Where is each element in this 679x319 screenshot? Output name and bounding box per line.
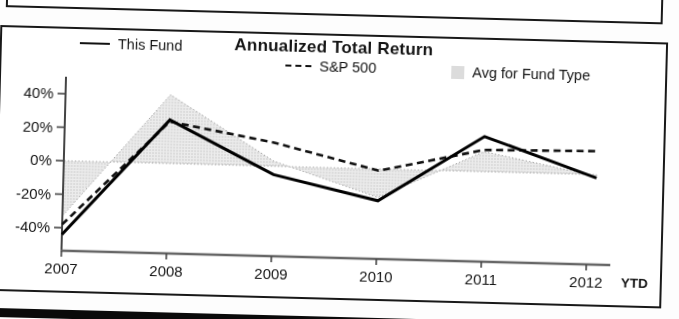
x-tick-label-2012: 2012 — [569, 273, 603, 291]
legend-item-this-fund: This Fund — [80, 35, 183, 54]
redaction-bar — [0, 308, 442, 319]
x-tick-label-2008: 2008 — [149, 262, 183, 280]
x-tick-label-2007: 2007 — [44, 259, 78, 277]
annualized-return-chart-panel: Annualized Total Return This Fund S&P 50… — [0, 25, 668, 308]
ytd-axis-label: YTD — [621, 275, 649, 291]
x-tick-label-2011: 2011 — [465, 270, 498, 288]
dashed-line-swatch-icon — [285, 64, 311, 67]
legend-label-sp500: S&P 500 — [319, 58, 376, 75]
y-tick-label-20: 20% — [22, 117, 52, 135]
y-tick-label-0: 0% — [30, 151, 52, 169]
scanned-document: Annualized Total Return This Fund S&P 50… — [0, 0, 679, 319]
y-tick-label-neg20: -20% — [16, 184, 51, 202]
x-tick-label-2009: 2009 — [254, 265, 288, 283]
solid-line-swatch-icon — [80, 42, 110, 45]
legend-label-this-fund: This Fund — [118, 36, 183, 54]
x-axis — [60, 251, 610, 265]
return-chart-plot: 40% 20% 0% -20% -40% 2007 2008 2009 2010… — [0, 67, 663, 304]
avg-fund-type-area — [62, 92, 598, 230]
y-tick-label-40: 40% — [23, 84, 53, 102]
y-tick-label-neg40: -40% — [15, 217, 50, 235]
scan-content: Annualized Total Return This Fund S&P 50… — [0, 0, 679, 319]
gray-area-swatch-icon — [451, 65, 464, 78]
previous-section-box-fragment — [6, 0, 664, 24]
legend-item-sp500: S&P 500 — [285, 57, 376, 75]
x-tick-label-2010: 2010 — [359, 268, 393, 286]
